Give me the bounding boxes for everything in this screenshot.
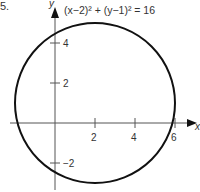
- problem-number: 5.: [0, 0, 9, 12]
- circle-curve: [15, 23, 175, 183]
- x-axis-label: x: [194, 121, 200, 132]
- circle-graph: 5. y (x−2)² + (y−1)² = 16 x 2 4 6 4 2 −2: [0, 0, 200, 192]
- x-tick-label-6: 6: [171, 132, 177, 143]
- y-tick-label-2: 2: [63, 78, 69, 89]
- x-tick-label-2: 2: [91, 132, 97, 143]
- y-axis-label: y: [48, 0, 55, 9]
- x-tick-label-4: 4: [131, 132, 137, 143]
- y-tick-label-4: 4: [63, 38, 69, 49]
- equation-label: (x−2)² + (y−1)² = 16: [64, 4, 155, 16]
- y-tick-label-neg2: −2: [63, 158, 75, 169]
